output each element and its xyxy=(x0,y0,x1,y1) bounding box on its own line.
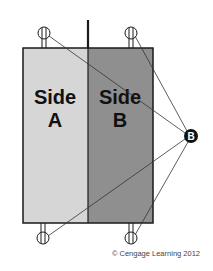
point-b-marker: B xyxy=(184,129,198,143)
copyright-credit: © Cengage Learning 2012 xyxy=(112,249,200,258)
terminal-top-left xyxy=(38,27,50,48)
side-a-panel xyxy=(23,48,88,223)
side-b-label-line2: B xyxy=(113,109,127,131)
diagram-canvas: Side A Side B xyxy=(0,0,213,271)
terminal-top-right xyxy=(125,27,137,48)
side-b-panel xyxy=(88,48,153,223)
battery-diagram: Side A Side B xyxy=(0,0,213,271)
side-a-label-line2: A xyxy=(48,109,62,131)
point-b-label: B xyxy=(187,131,194,142)
terminal-bottom-left xyxy=(37,223,49,244)
terminal-bottom-right xyxy=(125,223,137,244)
side-a-label-line1: Side xyxy=(34,86,76,108)
